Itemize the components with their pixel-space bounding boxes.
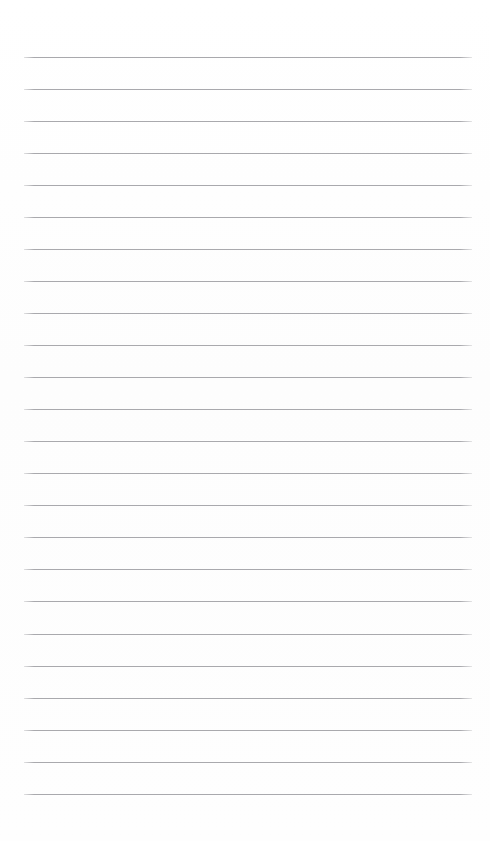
notepaper-page bbox=[0, 0, 490, 841]
rule-line-8 bbox=[24, 281, 472, 282]
rule-line-15 bbox=[24, 505, 472, 506]
writing-line-14[interactable] bbox=[24, 443, 472, 473]
writing-line-10[interactable] bbox=[24, 315, 472, 345]
rule-line-18 bbox=[24, 601, 472, 602]
rule-line-22 bbox=[24, 730, 472, 731]
writing-line-6[interactable] bbox=[24, 187, 472, 217]
writing-line-9[interactable] bbox=[24, 283, 472, 313]
writing-line-16[interactable] bbox=[24, 507, 472, 537]
writing-line-7[interactable] bbox=[24, 219, 472, 249]
writing-line-12[interactable] bbox=[24, 379, 472, 409]
rule-line-5 bbox=[24, 185, 472, 186]
rule-line-24 bbox=[24, 794, 472, 795]
writing-line-1[interactable] bbox=[24, 27, 472, 57]
rule-line-3 bbox=[24, 121, 472, 122]
rule-line-4 bbox=[24, 153, 472, 154]
writing-line-19[interactable] bbox=[24, 604, 472, 634]
writing-line-4[interactable] bbox=[24, 123, 472, 153]
rule-line-21 bbox=[24, 698, 472, 699]
writing-line-3[interactable] bbox=[24, 91, 472, 121]
rule-line-2 bbox=[24, 89, 472, 90]
rule-line-20 bbox=[24, 666, 472, 667]
writing-line-11[interactable] bbox=[24, 347, 472, 377]
writing-line-8[interactable] bbox=[24, 251, 472, 281]
ruled-lines-layer bbox=[0, 0, 490, 841]
writing-line-23[interactable] bbox=[24, 732, 472, 762]
writing-line-5[interactable] bbox=[24, 155, 472, 185]
rule-line-9 bbox=[24, 313, 472, 314]
rule-line-10 bbox=[24, 345, 472, 346]
writing-line-17[interactable] bbox=[24, 539, 472, 569]
rule-line-13 bbox=[24, 441, 472, 442]
writing-line-18[interactable] bbox=[24, 571, 472, 601]
writing-line-2[interactable] bbox=[24, 59, 472, 89]
rule-line-17 bbox=[24, 569, 472, 570]
rule-line-14 bbox=[24, 473, 472, 474]
rule-line-19 bbox=[24, 634, 472, 635]
rule-line-12 bbox=[24, 409, 472, 410]
rule-line-11 bbox=[24, 377, 472, 378]
rule-line-1 bbox=[24, 57, 472, 58]
writing-line-22[interactable] bbox=[24, 700, 472, 730]
writing-line-21[interactable] bbox=[24, 668, 472, 698]
rule-line-16 bbox=[24, 537, 472, 538]
rule-line-23 bbox=[24, 762, 472, 763]
writing-line-24[interactable] bbox=[24, 764, 472, 794]
rule-line-7 bbox=[24, 249, 472, 250]
writing-line-15[interactable] bbox=[24, 475, 472, 505]
writing-line-20[interactable] bbox=[24, 636, 472, 666]
rule-line-6 bbox=[24, 217, 472, 218]
writing-line-13[interactable] bbox=[24, 411, 472, 441]
